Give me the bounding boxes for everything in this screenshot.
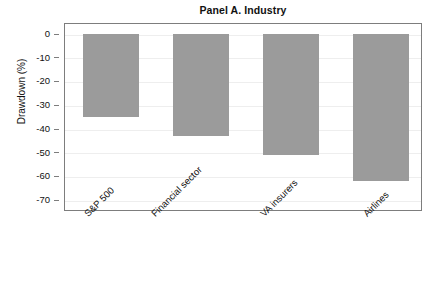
y-tick-label-0: 0 [45,29,50,39]
y-tick-label-2: -20 [36,76,50,86]
bar-va-insurers [263,34,319,155]
bar-chart-figure: Panel A. Industry Drawdown (%) 0 -10 -20… [0,0,448,291]
y-tick-mark [54,57,59,58]
y-tick-label-1: -10 [36,53,50,63]
y-tick-mark [54,152,59,153]
y-tick-label-4: -40 [36,124,50,134]
y-tick-mark [54,200,59,201]
bar-series [65,24,421,210]
y-axis-label: Drawdown (%) [16,22,27,162]
bar-airlines [353,34,409,181]
x-axis: S&P 500 Financial sector VA insurers Air… [0,211,448,291]
bar-financial-sector [173,34,229,136]
y-tick-label-7: -70 [36,195,50,205]
y-tick-label-3: -30 [36,100,50,110]
y-tick-label-5: -50 [36,148,50,158]
y-tick-mark [54,176,59,177]
y-tick-mark [54,129,59,130]
bar-sp-500 [83,34,139,117]
chart-title: Panel A. Industry [64,4,422,16]
y-tick-label-6: -60 [36,171,50,181]
y-tick-mark [54,81,59,82]
y-tick-mark [54,105,59,106]
plot-area [64,23,422,211]
y-tick-mark [54,34,59,35]
